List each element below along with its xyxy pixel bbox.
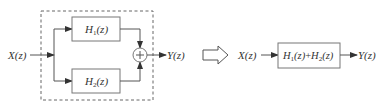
svg-text:H2(z): H2(z): [84, 75, 108, 89]
h1-to-sum-arrow: [120, 29, 140, 48]
input-label-right: X(z): [237, 49, 257, 62]
summing-junction: [133, 48, 147, 62]
h1-arg: (z): [96, 23, 108, 36]
output-label-left: Y(z): [167, 49, 185, 62]
output-label-right: Y(z): [358, 49, 376, 62]
left-parallel-diagram: X(z) H1(z) H2(z) Y(z): [7, 11, 185, 100]
equivalence-arrow-icon: [203, 46, 228, 64]
right-equivalent-diagram: X(z) H1(z)+H2(z) Y(z): [237, 43, 376, 68]
block-h1-plus-h2: H1(z)+H2(z): [278, 43, 340, 68]
parallel-system-diagram: X(z) H1(z) H2(z) Y(z): [0, 0, 384, 110]
block-h1: H1(z): [72, 17, 120, 41]
input-label-left: X(z): [7, 49, 27, 62]
svg-text:H1(z): H1(z): [84, 23, 108, 37]
h2-to-sum-arrow: [120, 62, 140, 81]
block-h2: H2(z): [72, 69, 120, 93]
h2-arg: (z): [96, 75, 108, 88]
